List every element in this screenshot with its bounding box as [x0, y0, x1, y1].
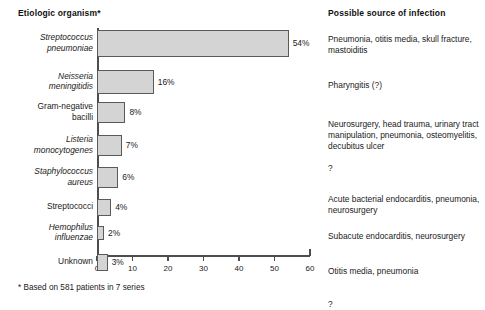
- bar: [97, 226, 104, 240]
- column-header-possible-source: Possible source of infection: [328, 8, 446, 18]
- bar-category-label-line: influenzae: [49, 232, 93, 243]
- bar-category-label-line: Listeria: [34, 134, 93, 145]
- bar-value-label: 8%: [129, 107, 141, 117]
- source-text: Subacute endocarditis, neurosurgery: [328, 231, 485, 242]
- bar-category-label-line: bacilli: [38, 112, 93, 123]
- axis-tick-label: 50: [270, 264, 279, 273]
- bar-category-label: Listeriamonocytogenes: [34, 134, 93, 155]
- bar-value-label: 2%: [108, 228, 120, 238]
- bar: [97, 135, 122, 156]
- bar-category-label: Streptococcuspneumoniae: [40, 32, 93, 53]
- bar-category-label-line: monocytogenes: [34, 145, 93, 156]
- axis-tick-label: 60: [306, 264, 315, 273]
- bar: [97, 254, 108, 271]
- source-text: Pharyngitis (?): [328, 80, 485, 91]
- bar-category-label: Unknown: [58, 256, 93, 267]
- bar-category-label: Gram-negativebacilli: [38, 101, 93, 122]
- axis-tick: [167, 256, 168, 261]
- axis-tick: [309, 249, 310, 256]
- axis-tick-label: 30: [199, 264, 208, 273]
- bar-value-label: 6%: [122, 172, 134, 182]
- bar-value-label: 54%: [293, 38, 310, 48]
- bar-category-label-line: pneumoniae: [40, 43, 93, 54]
- source-text: Pneumonia, otitis media, skull fracture,…: [328, 34, 485, 56]
- bar-category-label-line: Gram-negative: [38, 101, 93, 112]
- bar-category-label-line: meningitidis: [49, 81, 93, 92]
- bar-value-label: 3%: [112, 257, 124, 267]
- bar-category-label: Hemophilusinfluenzae: [49, 222, 93, 243]
- bar-category-label-line: Staphylococcus: [34, 166, 93, 177]
- bar: [97, 167, 118, 188]
- bar-category-label-line: Hemophilus: [49, 222, 93, 233]
- axis-tick: [274, 256, 275, 261]
- axis-tick-label: 20: [164, 264, 173, 273]
- source-text: ?: [328, 299, 485, 310]
- axis-tick: [132, 256, 133, 261]
- bar-chart: 0102030405060Streptococcuspneumoniae54%N…: [0, 26, 320, 276]
- bar-value-label: 7%: [126, 140, 138, 150]
- bar-category-label-line: Unknown: [58, 256, 93, 267]
- bar: [97, 199, 111, 216]
- bar: [97, 30, 289, 57]
- bar: [97, 70, 154, 94]
- bar-category-label-line: Streptococci: [47, 201, 93, 212]
- bar-category-label: Staphylococcusaureus: [34, 166, 93, 187]
- footnote: * Based on 581 patients in 7 series: [18, 283, 145, 292]
- column-header-etiologic-organism: Etiologic organism*: [18, 8, 101, 18]
- axis-tick-label: 40: [235, 264, 244, 273]
- source-text: Neurosurgery, head trauma, urinary tract…: [328, 119, 485, 151]
- axis-tick-label: 10: [128, 264, 137, 273]
- bar-category-label: Streptococci: [47, 201, 93, 212]
- source-text: ?: [328, 163, 485, 174]
- axis-tick: [238, 256, 239, 261]
- bar-value-label: 4%: [115, 202, 127, 212]
- bar-category-label-line: Streptococcus: [40, 32, 93, 43]
- axis-tick: [203, 256, 204, 261]
- bar-value-label: 16%: [158, 77, 175, 87]
- source-text: Acute bacterial endocarditis, pneumonia,…: [328, 194, 485, 216]
- bar-category-label-line: Neisseria: [49, 71, 93, 82]
- bar: [97, 102, 125, 123]
- source-text: Otitis media, pneumonia: [328, 266, 485, 277]
- bar-category-label-line: aureus: [34, 177, 93, 188]
- bar-category-label: Neisseriameningitidis: [49, 71, 93, 92]
